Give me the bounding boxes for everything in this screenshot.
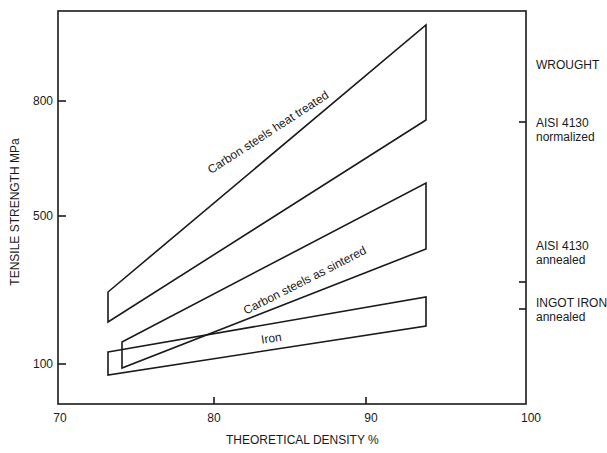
- band-carbon-steels-heat-treated: [108, 25, 426, 322]
- right-label-annealed-2: annealed: [536, 253, 585, 267]
- y-tick-label-500: 500: [13, 209, 53, 223]
- x-axis-label: THEORETICAL DENSITY %: [226, 433, 379, 447]
- x-tick-label-100: 100: [511, 411, 551, 425]
- right-label-annealed-1: AISI 4130: [536, 239, 589, 253]
- right-label-ingot-iron-1: INGOT IRON: [536, 296, 607, 310]
- right-label-normalized-2: normalized: [536, 130, 595, 144]
- right-label-ingot-iron-2: annealed: [536, 310, 585, 324]
- x-tick-label-70: 70: [40, 411, 80, 425]
- x-tick-label-90: 90: [351, 411, 391, 425]
- right-label-wrought: WROUGHT: [536, 58, 599, 72]
- plot-frame: [58, 11, 526, 404]
- right-label-normalized-1: AISI 4130: [536, 116, 589, 130]
- y-tick-label-100: 100: [13, 357, 53, 371]
- x-tick-label-80: 80: [194, 411, 234, 425]
- y-tick-label-800: 800: [13, 94, 53, 108]
